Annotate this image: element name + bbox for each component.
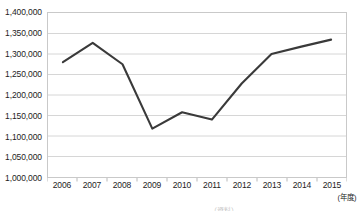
y-tick-label: 1,400,000: [5, 7, 42, 17]
y-tick-label: 1,000,000: [5, 173, 42, 183]
y-axis: 1,400,0001,350,0001,300,0001,250,0001,20…: [0, 12, 45, 178]
x-axis-unit-label: (年度): [338, 191, 357, 202]
y-tick-label: 1,100,000: [5, 132, 42, 142]
series-polyline: [63, 40, 331, 129]
plot-area: [47, 12, 347, 178]
data-series-line: [48, 13, 346, 177]
x-tick-marks: [47, 178, 347, 182]
clipped-footnote: （資料）: [210, 205, 238, 211]
y-tick-label: 1,050,000: [5, 152, 42, 162]
y-tick-label: 1,250,000: [5, 69, 42, 79]
y-tick-label: 1,150,000: [5, 111, 42, 121]
x-axis: 2006200720082009201020112012201320142015: [47, 180, 347, 194]
y-tick-label: 1,350,000: [5, 28, 42, 38]
y-tick-label: 1,300,000: [5, 49, 42, 59]
y-tick-label: 1,200,000: [5, 90, 42, 100]
